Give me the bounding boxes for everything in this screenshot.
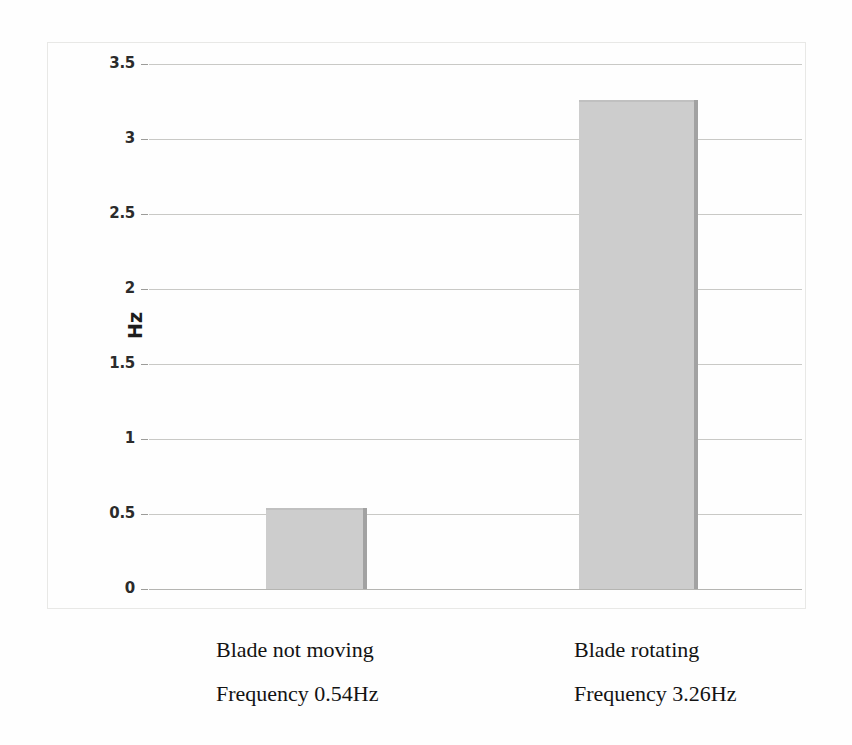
y-tick-mark-3-5 (141, 64, 148, 65)
category-frequency: Frequency 3.26Hz (574, 672, 737, 716)
y-tick-label-2-5: 2.5 (87, 204, 135, 222)
category-frequency: Frequency 0.54Hz (216, 672, 379, 716)
category-name: Blade rotating (574, 637, 699, 662)
y-tick-mark-2 (141, 289, 148, 290)
y-tick-mark-1 (141, 439, 148, 440)
gridline-0 (149, 589, 802, 590)
bar-blade-rotating[interactable] (579, 100, 694, 589)
y-tick-mark-2-5 (141, 214, 148, 215)
gridline-1-5 (149, 364, 802, 365)
bar-top-edge (266, 508, 363, 510)
bar-blade-not-moving[interactable] (266, 508, 363, 589)
bar-shadow (694, 100, 698, 589)
gridline-3 (149, 139, 802, 140)
y-tick-label-1: 1 (87, 429, 135, 447)
y-tick-label-0: 0 (87, 579, 135, 597)
chart-page: Hz 3.532.521.510.50 Blade not movingFreq… (0, 0, 852, 745)
gridline-2 (149, 289, 802, 290)
y-tick-label-3: 3 (87, 129, 135, 147)
y-tick-mark-0-5 (141, 514, 148, 515)
y-tick-mark-1-5 (141, 364, 148, 365)
plot-area: 3.532.521.510.50 (149, 43, 802, 610)
y-tick-label-3-5: 3.5 (87, 54, 135, 72)
category-label-blade-rotating: Blade rotatingFrequency 3.26Hz (574, 628, 737, 716)
category-label-blade-not-moving: Blade not movingFrequency 0.54Hz (216, 628, 379, 716)
chart-frame: Hz 3.532.521.510.50 (47, 42, 806, 609)
gridline-3-5 (149, 64, 802, 65)
bar-shadow (363, 508, 367, 589)
y-tick-label-1-5: 1.5 (87, 354, 135, 372)
y-axis-title: Hz (124, 312, 146, 339)
gridline-0-5 (149, 514, 802, 515)
y-tick-label-2: 2 (87, 279, 135, 297)
category-labels: Blade not movingFrequency 0.54HzBlade ro… (0, 628, 852, 738)
y-tick-label-0-5: 0.5 (87, 504, 135, 522)
y-tick-mark-0 (141, 589, 148, 590)
bar-top-edge (579, 100, 694, 102)
gridline-1 (149, 439, 802, 440)
gridline-2-5 (149, 214, 802, 215)
category-name: Blade not moving (216, 637, 374, 662)
y-tick-mark-3 (141, 139, 148, 140)
